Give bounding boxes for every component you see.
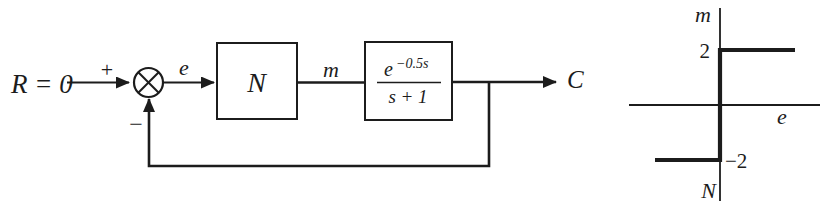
graph-upper-level-label: 2 <box>700 39 711 63</box>
figure-canvas: R = 0 + e N m e −0.5s <box>0 0 837 208</box>
graph-y-axis-label: m <box>695 2 711 27</box>
plant-numerator-exponent: −0.5s <box>396 56 429 71</box>
plant-block <box>365 42 452 120</box>
sum-minus-sign: − <box>129 111 143 137</box>
graph-nonlinearity-label: N <box>700 178 717 203</box>
summing-junction-cross-icon <box>138 72 158 92</box>
output-label: C <box>567 66 584 93</box>
error-signal-label: e <box>179 55 189 80</box>
nonlinearity-block-label: N <box>246 67 267 98</box>
block-diagram: R = 0 + e N m e −0.5s <box>10 42 584 166</box>
plant-numerator-base: e <box>384 58 393 80</box>
sum-plus-sign: + <box>101 57 113 82</box>
input-label: R = 0 <box>10 69 73 99</box>
plant-denominator: s + 1 <box>388 86 427 107</box>
control-signal-label: m <box>323 57 339 82</box>
graph-x-axis-label: e <box>777 104 787 129</box>
figure-container: R = 0 + e N m e −0.5s <box>0 0 837 208</box>
relay-characteristic-graph: m 2 e −2 N <box>629 2 820 203</box>
graph-lower-level-label: −2 <box>725 149 747 173</box>
